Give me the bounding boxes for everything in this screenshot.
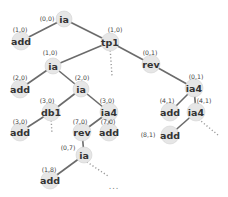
node-label: db1 xyxy=(41,107,61,118)
tree-node: add(1,8) xyxy=(40,166,60,190)
node-label: add xyxy=(160,107,180,118)
node-label: add xyxy=(10,127,30,138)
node-label: ia4 xyxy=(188,107,205,118)
node-coordinate: (3,0) xyxy=(40,97,55,104)
tree-node: add(4,1) xyxy=(160,97,180,122)
node-coordinate: (1,0) xyxy=(43,49,58,56)
node-coordinate: (4,1) xyxy=(197,97,212,104)
node-label: ia4 xyxy=(101,107,118,118)
node-coordinate: (0,1) xyxy=(143,49,158,56)
node-coordinate: (2,0) xyxy=(13,74,28,81)
node-label: ia xyxy=(79,150,89,161)
ellipsis-continuation: ... xyxy=(109,182,120,191)
tree-node: add(3,0) xyxy=(10,118,30,142)
tree-node: ia(1,0) xyxy=(43,49,61,75)
node-label: add xyxy=(40,175,60,186)
tree-node: ia(2,0) xyxy=(73,74,89,98)
tree-node: add(8,1) xyxy=(141,126,180,144)
tree-node: ia4(0,1) xyxy=(185,73,203,98)
tree-node: add(7,0) xyxy=(99,118,119,142)
node-coordinate: (1,8) xyxy=(42,166,57,173)
node-label: ia4 xyxy=(186,83,203,94)
node-label: tp1 xyxy=(101,37,119,48)
node-label: ia xyxy=(59,14,69,25)
node-coordinate: (7,0) xyxy=(73,118,88,125)
tree-node: add(2,0) xyxy=(10,74,30,99)
tree-node: rev(0,1) xyxy=(142,49,160,74)
node-coordinate: (4,1) xyxy=(160,97,175,104)
tree-node: db1(3,0) xyxy=(40,97,61,122)
tree-edge-elided xyxy=(110,47,112,76)
node-label: add xyxy=(11,36,31,47)
tree-node: ia(0,0) xyxy=(40,11,72,27)
tree-node: rev(7,0) xyxy=(73,118,92,142)
node-coordinate: (1,0) xyxy=(13,26,28,33)
node-coordinate: (1,0) xyxy=(108,26,123,33)
node-coordinate: (0,0) xyxy=(40,15,55,22)
tree-node: add(1,0) xyxy=(11,26,31,51)
node-coordinate: (0,7) xyxy=(61,144,76,151)
node-coordinate: (3,0) xyxy=(13,118,28,125)
node-coordinate: (7,0) xyxy=(101,118,116,125)
tree-diagram: ia(0,0)add(1,0)tp1(1,0)ia(1,0)rev(0,1)ad… xyxy=(0,0,228,197)
node-coordinate: (3,0) xyxy=(100,97,115,104)
node-label: add xyxy=(160,130,180,141)
node-label: rev xyxy=(73,127,91,138)
node-label: add xyxy=(10,84,30,95)
node-coordinate: (0,1) xyxy=(189,73,204,80)
node-label: add xyxy=(99,127,119,138)
node-label: ia xyxy=(48,61,58,72)
node-coordinate: (2,0) xyxy=(75,74,90,81)
node-coordinate: (8,1) xyxy=(141,131,156,138)
node-label: rev xyxy=(142,59,160,70)
tree-node: ia4(4,1) xyxy=(187,97,211,122)
node-label: ia xyxy=(76,84,86,95)
